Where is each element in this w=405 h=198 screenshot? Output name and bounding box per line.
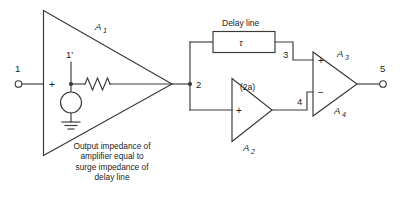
caption-line-4: delay line [58,172,166,182]
label-amplifier-a4-subscript: 4 [342,111,346,118]
label-amplifier-a2: A [242,142,249,153]
label-amplifier-a1: A [94,21,101,32]
wire-a2-to-a4-minus [272,92,313,110]
label-amplifier-a2-subscript: 2 [250,148,255,155]
output-impedance-resistor [71,78,172,90]
amplifier-a1-triangle [44,11,173,156]
voltage-source-symbol [61,92,82,113]
delay-line-box [213,32,275,53]
label-a1-plus-sign: + [49,79,55,90]
label-a4-minus-sign: − [318,87,324,98]
label-node-2: 2 [196,79,201,90]
label-terminal-1: 1 [15,63,20,74]
caption-line-2: amplifier equal to [58,151,166,161]
label-amplifier-a1-subscript: 1 [103,27,107,34]
label-terminal-5: 5 [380,63,385,74]
circuit-diagram: 1 1' + A 1 2 Delay line τ 3 4 (2a) + A 2… [0,0,405,198]
label-node-1-prime: 1' [66,49,73,60]
caption-line-1: Output impedance of [58,141,166,151]
terminal-5-circle[interactable] [380,81,387,88]
terminal-1-circle[interactable] [15,81,22,88]
output-impedance-caption: Output impedance of amplifier equal to s… [58,141,166,183]
label-amplifier-a3-subscript: 3 [345,54,349,61]
label-node-3: 3 [283,49,288,60]
amplifier-a1 [44,11,173,156]
ground-symbol [62,122,80,129]
label-amplifier-a3: A [336,48,343,59]
label-node-4: 4 [297,96,302,107]
label-amplifier-a4: A [333,105,340,116]
delay-line-block [213,32,275,53]
label-delay-line-title: Delay line [222,18,260,28]
caption-line-3: surge impedance of [58,162,166,172]
label-a2-plus-sign: + [236,105,242,116]
wire-delayline-to-a3-plus [275,42,313,60]
label-a2-gain: (2a) [240,82,255,92]
label-a3-plus-sign: + [318,55,324,66]
